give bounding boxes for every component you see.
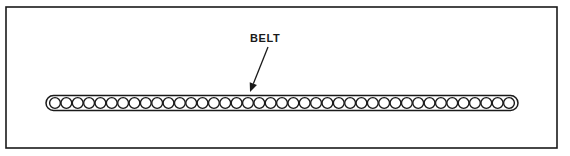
belt-link bbox=[413, 98, 424, 109]
belt-link bbox=[84, 98, 95, 109]
belt-link bbox=[322, 98, 333, 109]
belt-link bbox=[504, 98, 515, 109]
belt-link bbox=[390, 98, 401, 109]
belt-link bbox=[470, 98, 481, 109]
belt-link bbox=[345, 98, 356, 109]
belt-link bbox=[277, 98, 288, 109]
belt-link bbox=[424, 98, 435, 109]
belt-link bbox=[106, 98, 117, 109]
belt-link bbox=[186, 98, 197, 109]
diagram-canvas: BELT bbox=[0, 0, 570, 156]
belt-link bbox=[458, 98, 469, 109]
belt-link bbox=[356, 98, 367, 109]
belt-link bbox=[254, 98, 265, 109]
belt-link bbox=[174, 98, 185, 109]
belt-link bbox=[436, 98, 447, 109]
belt-assembly bbox=[46, 96, 518, 111]
belt-label: BELT bbox=[250, 32, 280, 44]
belt-callout: BELT bbox=[250, 32, 281, 92]
belt-link bbox=[447, 98, 458, 109]
belt-link bbox=[333, 98, 344, 109]
belt-diagram-figure: BELT bbox=[0, 0, 570, 156]
figure-frame-border bbox=[6, 7, 557, 148]
belt-link bbox=[129, 98, 140, 109]
belt-link bbox=[163, 98, 174, 109]
belt-link bbox=[209, 98, 220, 109]
belt-link-group bbox=[50, 98, 515, 109]
belt-link bbox=[379, 98, 390, 109]
belt-link bbox=[288, 98, 299, 109]
belt-link bbox=[95, 98, 106, 109]
belt-link bbox=[231, 98, 242, 109]
belt-link bbox=[401, 98, 412, 109]
belt-link bbox=[140, 98, 151, 109]
belt-link bbox=[481, 98, 492, 109]
belt-link bbox=[492, 98, 503, 109]
belt-link bbox=[265, 98, 276, 109]
belt-link bbox=[367, 98, 378, 109]
belt-link bbox=[118, 98, 129, 109]
belt-link bbox=[72, 98, 83, 109]
belt-leader-line bbox=[253, 47, 268, 84]
belt-link bbox=[197, 98, 208, 109]
belt-link bbox=[243, 98, 254, 109]
belt-link bbox=[50, 98, 61, 109]
belt-link bbox=[220, 98, 231, 109]
belt-link bbox=[311, 98, 322, 109]
belt-link bbox=[299, 98, 310, 109]
belt-link bbox=[152, 98, 163, 109]
belt-arrowhead-icon bbox=[250, 82, 257, 92]
belt-link bbox=[61, 98, 72, 109]
